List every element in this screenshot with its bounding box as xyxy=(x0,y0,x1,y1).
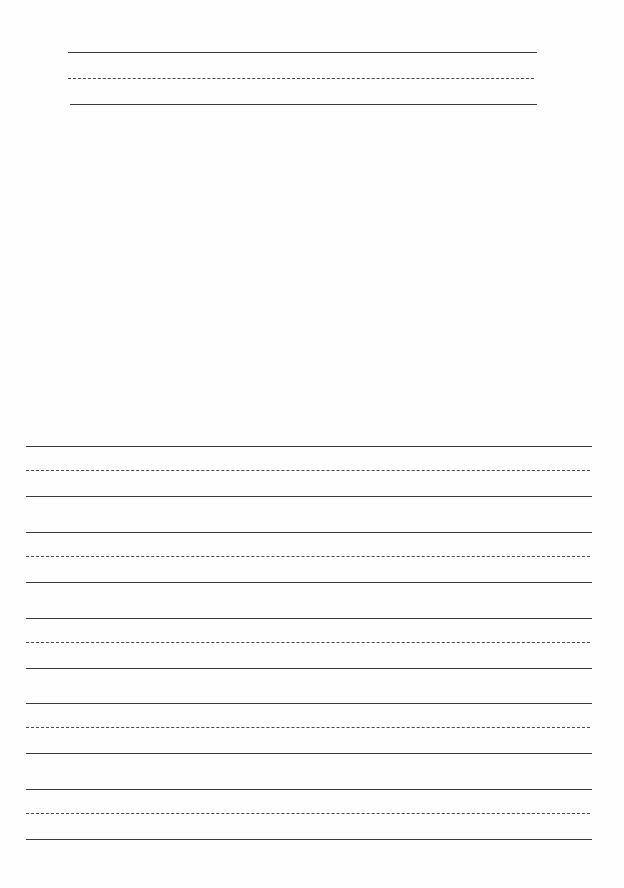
practice-row-mid-dashed-line xyxy=(26,642,590,643)
practice-row-base-line xyxy=(26,668,592,669)
practice-row-top-line xyxy=(26,618,592,619)
practice-row-5 xyxy=(26,789,592,841)
title-top-line xyxy=(68,52,537,53)
practice-row-top-line xyxy=(26,703,592,704)
practice-row-4 xyxy=(26,703,592,755)
practice-row-mid-dashed-line xyxy=(26,727,590,728)
practice-row-base-line xyxy=(26,839,592,840)
practice-row-top-line xyxy=(26,532,592,533)
title-guide-lines xyxy=(68,52,537,106)
practice-row-base-line xyxy=(26,582,592,583)
practice-row-2 xyxy=(26,532,592,584)
practice-row-mid-dashed-line xyxy=(26,813,590,814)
practice-row-3 xyxy=(26,618,592,670)
drawing-area xyxy=(26,110,592,430)
title-base-line xyxy=(70,104,537,105)
practice-row-mid-dashed-line xyxy=(26,470,590,471)
practice-row-base-line xyxy=(26,753,592,754)
practice-row-1 xyxy=(26,446,592,498)
title-mid-dashed-line xyxy=(68,78,534,79)
practice-row-top-line xyxy=(26,446,592,447)
practice-row-mid-dashed-line xyxy=(26,556,590,557)
practice-page xyxy=(0,0,624,888)
practice-row-top-line xyxy=(26,789,592,790)
practice-row-base-line xyxy=(26,496,592,497)
